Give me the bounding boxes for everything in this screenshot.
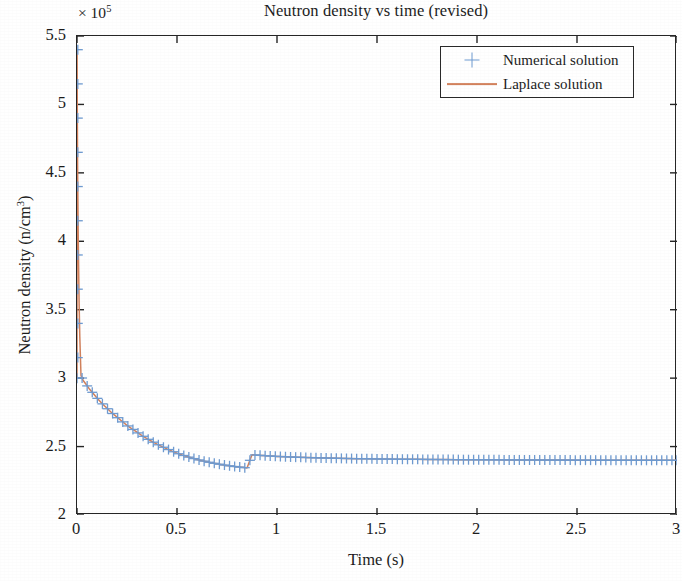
chart-legend: Numerical solution Laplace solution [440,46,634,98]
y-axis-multiplier: × 105 [78,4,111,22]
plus-marker-icon [441,47,503,73]
y-tick-label: 3 [58,367,66,387]
y-tick-label: 2 [58,504,66,524]
x-axis-label: Time (s) [76,550,676,570]
plot-area [76,35,676,514]
series-laplace-solution [77,50,677,468]
legend-item-laplace-solution: Laplace solution [441,71,635,97]
legend-item-numerical-solution: Numerical solution [441,47,635,73]
y-axis-label-exponent: 3 [15,201,26,206]
line-sample-icon [441,71,503,97]
y-axis-multiplier-prefix: × 10 [78,4,106,21]
x-tick-label: 0.5 [166,519,187,539]
y-tick-label: 5.5 [45,25,66,45]
y-tick-label: 2.5 [45,436,66,456]
series-numerical-solution [77,45,677,473]
x-tick-label: 1 [272,519,280,539]
y-tick-label: 4 [58,230,66,250]
chart-figure: Neutron density vs time (revised) × 105 … [0,0,682,581]
y-axis-multiplier-exponent: 5 [106,3,111,14]
x-tick-label: 2 [472,519,480,539]
y-axis-label: Neutron density (n/cm3) [15,35,35,515]
y-axis-label-text: Neutron density (n/cm [15,206,34,354]
x-tick-label: 2.5 [566,519,587,539]
y-tick-label: 5 [58,93,66,113]
chart-title: Neutron density vs time (revised) [76,1,676,21]
y-tick-label: 3.5 [45,299,66,319]
y-axis-label-tail: ) [15,195,34,201]
legend-label-numerical: Numerical solution [503,52,618,69]
legend-label-laplace: Laplace solution [503,76,603,93]
y-tick-label: 4.5 [45,162,66,182]
axis-tick-marks [77,36,677,515]
plot-svg [77,36,677,515]
x-tick-label: 1.5 [366,519,387,539]
x-tick-label: 0 [72,519,80,539]
x-tick-label: 3 [672,519,680,539]
